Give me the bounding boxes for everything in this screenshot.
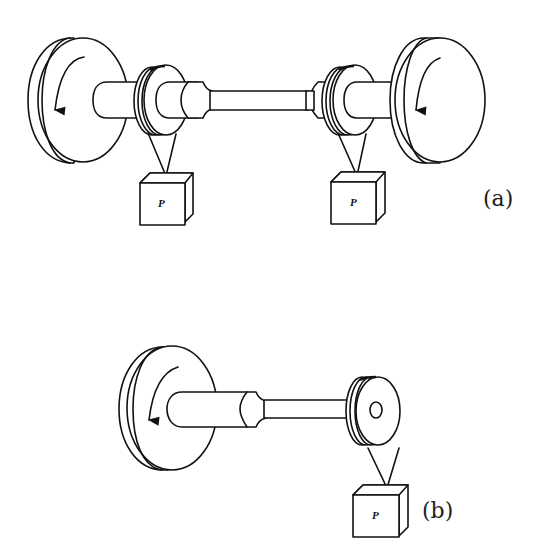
right-cable bbox=[338, 133, 366, 176]
right-disk bbox=[390, 38, 485, 163]
weight-box: P bbox=[353, 485, 408, 537]
panel-label-a: (a) bbox=[483, 186, 513, 211]
cable bbox=[368, 448, 399, 488]
panel-label-b: (b) bbox=[422, 498, 453, 523]
panel-a: P P (a) bbox=[28, 38, 513, 225]
weight-box-left: P bbox=[140, 173, 193, 225]
weight-label: P bbox=[350, 196, 357, 208]
left-cable bbox=[148, 133, 176, 176]
thick-shaft bbox=[167, 392, 247, 427]
thin-shaft bbox=[210, 91, 308, 110]
weight-box-right: P bbox=[331, 172, 385, 224]
thin-shaft bbox=[264, 400, 348, 418]
pulley-hole bbox=[370, 402, 382, 418]
weight-label: P bbox=[372, 509, 379, 521]
pulley bbox=[346, 377, 400, 488]
torsion-shaft-diagram: P P (a) bbox=[0, 0, 537, 543]
collar bbox=[240, 392, 266, 427]
left-collar bbox=[181, 82, 212, 118]
panel-b: P (b) bbox=[119, 346, 453, 537]
weight-label: P bbox=[158, 197, 165, 209]
